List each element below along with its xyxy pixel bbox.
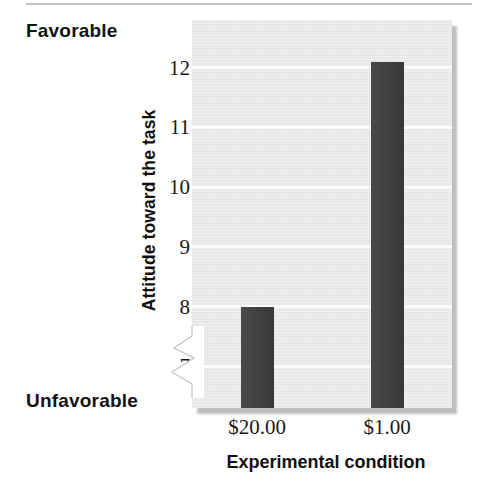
y-tick-label: 12 <box>150 57 190 78</box>
gridline <box>192 245 452 248</box>
y-tick-label: 10 <box>150 177 190 198</box>
bar-chart-figure: Favorable Unfavorable Attitude toward th… <box>0 0 486 487</box>
y-tick-label: 9 <box>150 236 190 257</box>
top-divider-rule <box>26 3 472 5</box>
gridline <box>192 305 452 308</box>
plot-texture-overlay <box>192 20 452 408</box>
x-axis-title: Experimental condition <box>186 452 466 473</box>
gridline <box>192 126 452 129</box>
x-axis-tick-labels: $20.00 $1.00 <box>192 415 452 445</box>
x-tick-label: $20.00 <box>228 415 286 440</box>
x-tick-label: $1.00 <box>363 415 410 440</box>
axis-break-icon <box>170 326 204 398</box>
y-tick-label: 8 <box>150 296 190 317</box>
gridline <box>192 186 452 189</box>
y-tick-label: 11 <box>150 117 190 138</box>
gridline <box>192 365 452 368</box>
bar <box>371 62 404 408</box>
scale-anchor-unfavorable: Unfavorable <box>26 390 138 412</box>
plot-area <box>192 20 452 408</box>
scale-anchor-favorable: Favorable <box>26 20 118 42</box>
gridline <box>192 66 452 69</box>
bar <box>241 307 274 408</box>
